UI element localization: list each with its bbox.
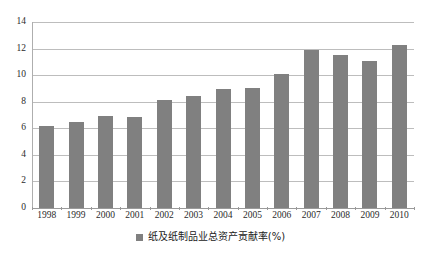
bar	[69, 122, 84, 208]
x-tick-label: 2007	[302, 210, 321, 221]
x-tick-mark	[179, 207, 180, 210]
x-axis: 1998199920002001200220032004200520062007…	[32, 210, 414, 226]
y-tick-label: 2	[21, 177, 26, 187]
x-tick-label: 2002	[155, 210, 174, 221]
x-tick-mark	[238, 207, 239, 210]
y-tick-label: 0	[21, 203, 26, 213]
legend-label: 纸及纸制品业总资产贡献率(%)	[148, 232, 285, 242]
x-tick-label: 2001	[125, 210, 144, 221]
bar-chart-figure: 02468101214 1998199920002001200220032004…	[0, 0, 421, 265]
x-tick-label: 2000	[96, 210, 115, 221]
x-tick-label: 2008	[331, 210, 350, 221]
x-tick-mark	[385, 207, 386, 210]
bar	[98, 116, 113, 208]
bar	[157, 100, 172, 208]
bar	[186, 96, 201, 208]
y-tick-label: 4	[21, 150, 26, 160]
legend-swatch-icon	[136, 234, 143, 241]
x-tick-label: 1999	[67, 210, 86, 221]
bar	[274, 74, 289, 208]
bar	[216, 89, 231, 208]
x-tick-mark	[150, 207, 151, 210]
y-axis: 02468101214	[0, 0, 30, 265]
x-tick-label: 2005	[243, 210, 262, 221]
x-tick-mark	[355, 207, 356, 210]
y-tick-label: 12	[17, 44, 27, 54]
chart-legend: 纸及纸制品业总资产贡献率(%)	[0, 232, 421, 242]
x-tick-mark	[296, 207, 297, 210]
x-tick-mark	[326, 207, 327, 210]
x-tick-mark	[91, 207, 92, 210]
x-tick-mark	[120, 207, 121, 210]
x-tick-label: 2009	[360, 210, 379, 221]
bar	[333, 55, 348, 208]
bars-layer	[32, 22, 414, 208]
bar	[392, 45, 407, 208]
x-tick-label: 2003	[184, 210, 203, 221]
x-tick-mark	[267, 207, 268, 210]
x-tick-label: 2006	[272, 210, 291, 221]
bar	[362, 61, 377, 208]
bar	[39, 126, 54, 208]
x-tick-label: 2010	[390, 210, 409, 221]
y-tick-label: 8	[21, 97, 26, 107]
x-tick-label: 1998	[37, 210, 56, 221]
x-tick-mark	[61, 207, 62, 210]
y-tick-label: 6	[21, 124, 26, 134]
x-tick-mark	[32, 207, 33, 210]
x-tick-mark	[208, 207, 209, 210]
y-tick-label: 10	[17, 70, 27, 80]
bar	[245, 88, 260, 208]
y-tick-label: 14	[17, 17, 27, 27]
bar	[127, 117, 142, 208]
bar	[304, 50, 319, 208]
x-tick-mark	[414, 207, 415, 210]
x-tick-label: 2004	[214, 210, 233, 221]
